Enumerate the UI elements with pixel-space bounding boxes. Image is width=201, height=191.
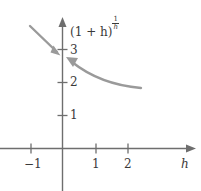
y-axis-arrowhead <box>59 17 67 27</box>
curve-label-exponent: 1h <box>112 16 119 32</box>
x-axis-arrowhead <box>186 145 196 153</box>
curve-label-base: (1 + h) <box>70 25 112 39</box>
y-tick-label-1: 1 <box>70 109 78 121</box>
x-tick-label-2: 2 <box>124 158 132 170</box>
x-axis-label: h <box>181 158 189 170</box>
y-tick-label-2: 2 <box>70 76 78 88</box>
left-approach-arrow <box>30 26 61 56</box>
x-tick-label-1: 1 <box>92 158 100 170</box>
y-tick-label-3: 3 <box>70 44 78 56</box>
x-tick-label-minus-1: −1 <box>24 158 42 170</box>
math-graph-figure: (1 + h)1h 3 2 1 −1 1 2 h <box>0 0 201 191</box>
curve-function-label: (1 + h)1h <box>70 18 119 38</box>
exponent-denominator: h <box>112 24 119 31</box>
